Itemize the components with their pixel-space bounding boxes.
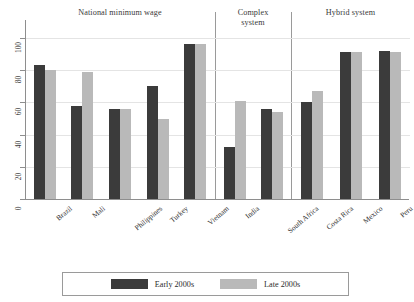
panel-title-national-minimum-wage: National minimum wage: [26, 8, 214, 18]
x-tick-label-turkey: Turkey: [168, 204, 190, 224]
bar-india-early-2000s: [224, 147, 235, 199]
panel-title-line: Hybrid system: [292, 8, 409, 18]
panel-title-hybrid-system: Hybrid system: [292, 8, 409, 18]
bar-brazil-late-2000s: [45, 70, 56, 199]
bar-vietnam-early-2000s: [184, 44, 195, 199]
y-tick-label-40: 40: [14, 134, 23, 154]
legend-item-early-2000s: Early 2000s: [111, 279, 194, 289]
bar-brazil-early-2000s: [34, 65, 45, 199]
x-tick-label-brazil: Brazil: [54, 204, 74, 223]
legend-swatch-early-2000s: [111, 279, 148, 289]
x-axis-line: [25, 199, 409, 200]
y-tick-label-20: 20: [14, 166, 23, 186]
bar-peru-late-2000s: [390, 52, 401, 199]
panel-divider-1: [215, 12, 216, 200]
x-tick-label-south-africa: South Africa: [285, 204, 320, 235]
bar-turkey-early-2000s: [147, 86, 158, 199]
gridline-100: [26, 38, 410, 39]
bar-costa-rica-late-2000s: [312, 91, 323, 199]
panel-divider-2: [291, 12, 292, 200]
bar-vietnam-late-2000s: [195, 44, 206, 199]
panel-title-row: National minimum wage Complexsystem Hybr…: [25, 8, 409, 34]
legend: Early 2000s Late 2000s: [62, 272, 349, 296]
bar-philippines-late-2000s: [120, 109, 131, 199]
x-tick-label-costa-rica: Costa Rica: [324, 204, 354, 232]
bar-mali-early-2000s: [71, 106, 82, 199]
bar-mexico-late-2000s: [351, 52, 362, 199]
x-tick-label-mali: Mali: [91, 204, 107, 220]
x-tick-label-india: India: [243, 204, 260, 221]
bar-turkey-late-2000s: [158, 119, 169, 200]
y-tick-label-60: 60: [14, 102, 23, 122]
bar-philippines-early-2000s: [109, 109, 120, 199]
panel-title-line: National minimum wage: [26, 8, 214, 18]
y-axis-line: [25, 20, 26, 199]
panel-title-line: Complex: [216, 8, 290, 18]
bar-india-late-2000s: [235, 101, 246, 199]
x-tick-label-philippines: Philippines: [133, 204, 164, 232]
bar-mali-late-2000s: [82, 72, 93, 199]
legend-swatch-late-2000s: [220, 279, 257, 289]
x-tick-label-vietnam: Vietnam: [206, 204, 231, 227]
x-tick-label-mexico: Mexico: [361, 204, 384, 225]
legend-label-late-2000s: Late 2000s: [264, 280, 300, 289]
bar-south-africa-late-2000s: [272, 112, 283, 199]
bar-peru-early-2000s: [379, 51, 390, 199]
panel-title-complex-system: Complexsystem: [216, 8, 290, 27]
legend-item-late-2000s: Late 2000s: [220, 279, 300, 289]
y-tick-label-0: 0: [14, 199, 23, 219]
y-tick-label-100: 100: [14, 38, 23, 58]
x-tick-label-peru: Peru: [398, 204, 414, 220]
y-tick-label-80: 80: [14, 70, 23, 90]
panel-title-line: system: [216, 18, 290, 28]
bar-costa-rica-early-2000s: [301, 102, 312, 199]
bar-south-africa-early-2000s: [261, 109, 272, 199]
bar-mexico-early-2000s: [340, 52, 351, 199]
legend-label-early-2000s: Early 2000s: [155, 280, 194, 289]
